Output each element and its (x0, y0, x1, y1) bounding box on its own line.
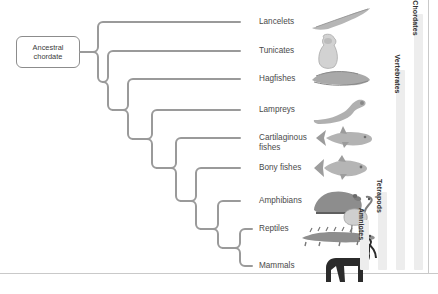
branch-node7-lower (201, 229, 223, 248)
branch-node5-upper-cartilaginous (157, 138, 240, 168)
tip-label-hagfishes: Hagfishes (259, 74, 295, 84)
tip-label-tunicates: Tunicates (259, 46, 294, 56)
tip-label-amphibians: Amphibians (259, 196, 302, 206)
tip-label-bony-fishes: Bony fishes (259, 163, 301, 173)
clade-bar-amniotes: Amniotes (360, 220, 369, 270)
tip-label-lampreys: Lampreys (259, 105, 295, 115)
branch-node3-upper-hagfishes (113, 79, 240, 110)
clade-bar-chordates: Chordates (414, 14, 423, 270)
clade-label-vertebrates: Vertebrates (394, 54, 401, 93)
branch-node6-lower (181, 201, 201, 229)
branch-node7-upper-amphibians (201, 201, 240, 229)
branch-node6-upper-bony-fishes (181, 168, 240, 201)
shark-illustration (310, 124, 376, 152)
branch-node4-lower (133, 139, 157, 168)
branch-node2-lower (103, 82, 113, 110)
clade-bar-tetrapods: Tetrapods (378, 192, 387, 270)
branch-node2-upper-tunicates (103, 51, 240, 82)
tip-label-reptiles: Reptiles (259, 224, 289, 234)
clade-label-amniotes: Amniotes (358, 208, 365, 241)
tip-label-lancelets: Lancelets (259, 17, 294, 27)
branch-node1-lower (92, 52, 103, 82)
hagfish-illustration (310, 62, 372, 90)
clade-label-chordates: Chordates (412, 0, 419, 36)
branch-node4-upper-lampreys (133, 110, 240, 139)
branch-node1-upper-lancelets (92, 22, 240, 52)
bony-fish-illustration (310, 154, 370, 182)
tip-label-mammals: Mammals (259, 261, 294, 271)
branch-node8-mammals (223, 248, 252, 266)
clade-label-tetrapods: Tetrapods (376, 179, 383, 213)
horse-illustration (318, 236, 380, 286)
lancelet-illustration (310, 6, 374, 32)
branch-node8-reptiles (223, 229, 252, 248)
branch-node5-lower (157, 168, 181, 201)
lamprey-illustration (310, 96, 370, 126)
branch-node3-lower (113, 110, 133, 139)
cladogram-figure: Ancestral chordate (0, 0, 438, 294)
clade-bar-vertebrates: Vertebrates (396, 70, 405, 270)
tip-label-cartilaginous-fishes: Cartilaginous fishes (259, 133, 307, 154)
